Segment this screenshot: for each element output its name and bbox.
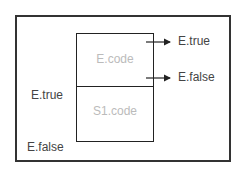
exit-true-label: E.true [178,34,210,48]
entry-true-label: E.true [31,88,63,102]
exit-false-label: E.false [178,70,215,84]
entry-false-label: E.false [27,140,64,154]
